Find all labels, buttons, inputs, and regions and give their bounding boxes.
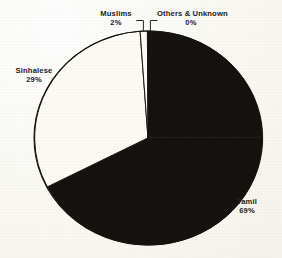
slice-label-others-unknown: Others & Unknown 0%: [157, 9, 225, 27]
pie-chart-canvas: [0, 0, 282, 258]
slice-label-sinhalese: Sinhalese 29%: [7, 66, 61, 84]
pie-chart-figure: Muslims 2% Others & Unknown 0% Sinhalese…: [0, 0, 282, 258]
slice-label-muslims-percent: 2%: [95, 18, 137, 27]
slice-label-others-unknown-percent: 0%: [157, 18, 225, 27]
leader-line-muslims: [136, 21, 143, 32]
slice-label-others-unknown-name: Others & Unknown: [157, 9, 225, 18]
slice-label-tamil: Tamil 69%: [228, 197, 266, 215]
slice-label-muslims: Muslims 2%: [95, 9, 137, 27]
slice-label-sinhalese-percent: 29%: [7, 75, 61, 84]
slice-label-muslims-name: Muslims: [95, 9, 137, 18]
slice-label-tamil-name: Tamil: [228, 197, 266, 206]
slice-label-tamil-percent: 69%: [228, 206, 266, 215]
slice-label-sinhalese-name: Sinhalese: [7, 66, 61, 75]
